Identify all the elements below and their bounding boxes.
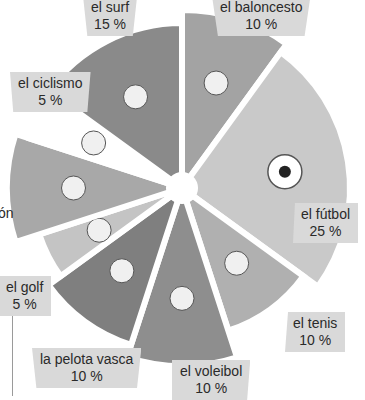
surf-wave-icon — [124, 85, 148, 109]
label-baloncesto-name: el baloncesto — [220, 0, 303, 15]
label-baloncesto: el baloncesto 10 % — [212, 0, 311, 36]
label-golf-pct: 5 % — [6, 296, 43, 313]
jai-alai-cesta-icon — [110, 259, 134, 283]
label-natacion-name: ón — [0, 205, 14, 221]
label-baloncesto-pct: 10 % — [220, 16, 303, 33]
basketball-hoop-icon — [204, 71, 228, 95]
label-pelota-vasca: la pelota vasca 10 % — [32, 348, 141, 388]
label-voleibol-pct: 10 % — [180, 380, 242, 397]
label-surf: el surf 15 % — [83, 0, 137, 36]
label-tenis: el tenis 10 % — [285, 312, 345, 352]
label-futbol: el fútbol 25 % — [293, 203, 358, 243]
divider-line — [12, 310, 13, 396]
label-natacion: ón — [0, 202, 18, 225]
label-golf-name: el golf — [6, 279, 43, 295]
label-ciclismo: el ciclismo 5 % — [10, 72, 91, 112]
label-tenis-pct: 10 % — [293, 332, 337, 349]
label-voleibol-name: el voleibol — [180, 363, 242, 379]
soccer-ball-icon — [268, 155, 302, 189]
label-surf-pct: 15 % — [91, 16, 129, 33]
label-voleibol: el voleibol 10 % — [172, 360, 250, 400]
label-futbol-name: el fútbol — [301, 206, 350, 222]
volleyball-hands-icon — [170, 286, 194, 310]
label-pelota-vasca-name: la pelota vasca — [40, 351, 133, 367]
label-pelota-vasca-pct: 10 % — [40, 368, 133, 385]
cyclist-icon — [82, 131, 106, 155]
golf-club-icon — [87, 218, 111, 242]
label-ciclismo-name: el ciclismo — [18, 75, 83, 91]
pie-center-hub — [166, 172, 198, 204]
swimmer-icon — [62, 176, 86, 200]
label-golf: el golf 5 % — [0, 276, 51, 316]
label-ciclismo-pct: 5 % — [18, 92, 83, 109]
label-tenis-name: el tenis — [293, 315, 337, 331]
label-futbol-pct: 25 % — [301, 223, 350, 240]
label-surf-name: el surf — [91, 0, 129, 15]
tennis-racket-icon — [225, 251, 249, 275]
